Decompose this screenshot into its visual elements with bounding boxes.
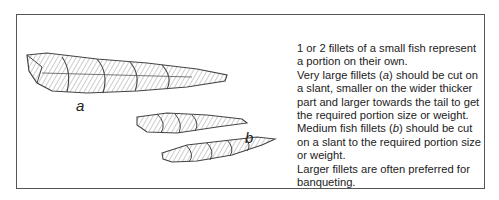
label-b: b bbox=[245, 129, 253, 146]
caption-text: 1 or 2 fillets of a small fish represent… bbox=[297, 42, 482, 189]
caption-p4: Larger fillets are often preferred for b… bbox=[297, 163, 482, 190]
large-fillet-a-icon bbox=[27, 53, 227, 93]
figure-frame: a b 1 or 2 fillets of a small fish repre… bbox=[16, 14, 485, 189]
label-a: a bbox=[76, 97, 84, 114]
medium-fillet-b1-icon bbox=[137, 113, 247, 133]
caption-p3: Medium fish fillets (b) should be cut on… bbox=[297, 122, 482, 162]
caption-p1: 1 or 2 fillets of a small fish represent… bbox=[297, 42, 482, 69]
caption-p2: Very large fillets (a) should be cut on … bbox=[297, 69, 482, 123]
medium-fillet-b2-icon bbox=[162, 137, 275, 162]
fish-fillets-illustration bbox=[17, 15, 307, 190]
